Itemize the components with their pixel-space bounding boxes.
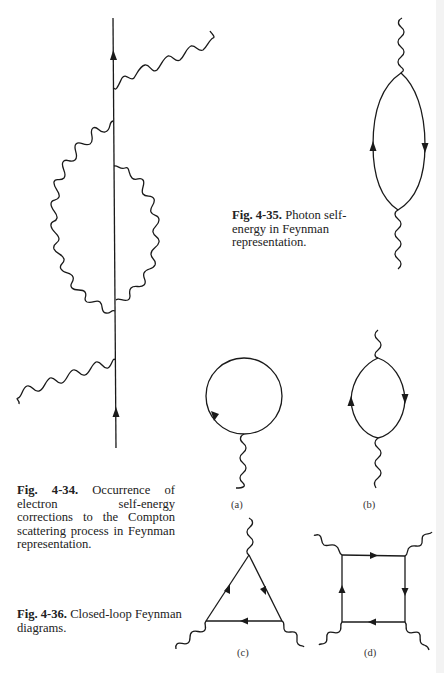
sublabel-d: (d)	[364, 647, 376, 658]
top-photon	[398, 18, 404, 73]
arrow-up-icon	[348, 396, 355, 406]
tadpole-loop	[206, 358, 282, 434]
self-energy-loop-left	[51, 121, 115, 313]
bottom-photon	[395, 210, 401, 269]
fig-4-34-diagram	[17, 18, 214, 448]
top-photon	[247, 518, 253, 555]
outgoing-photon	[114, 31, 214, 89]
arrow-up-icon	[110, 50, 117, 60]
photon	[236, 434, 246, 488]
figure-label: Fig. 4-36.	[17, 607, 67, 621]
arrow-left-icon	[240, 618, 248, 625]
arrow-down-icon	[402, 588, 409, 596]
arrow-down-icon	[402, 394, 409, 404]
arrow-right-icon	[370, 552, 378, 559]
self-energy-loop-right	[114, 166, 159, 301]
electron-line	[113, 18, 116, 448]
fig-4-36-c-diagram	[176, 518, 304, 649]
arrow-up-icon	[339, 585, 346, 593]
fig-4-36-a-diagram	[206, 358, 282, 488]
right-photon	[282, 621, 304, 647]
fermion-loop	[373, 73, 425, 210]
figure-label: Fig. 4-35.	[232, 208, 282, 222]
bottom-photon	[375, 438, 381, 488]
caption-fig-4-35: Fig. 4-35. Photon self-energy in Feynman…	[232, 209, 352, 250]
top-left-photon	[314, 535, 342, 555]
caption-fig-4-36: Fig. 4-36. Closed-loop Feynman diagrams.	[17, 608, 192, 635]
sublabel-b: (b)	[363, 499, 375, 510]
fig-4-36-b-diagram	[348, 330, 409, 488]
bottom-right-photon	[405, 622, 429, 650]
arrow-icon	[260, 586, 266, 595]
feynman-diagrams: .ln { stroke: #1a1a1a; stroke-width: 1.3…	[0, 0, 444, 673]
arrow-left-icon	[368, 619, 376, 626]
fermion-loop	[351, 358, 405, 438]
caption-fig-4-34: Fig. 4-34. Occurrence of electron self-e…	[17, 484, 175, 552]
arrow-up-icon	[370, 141, 377, 151]
fig-4-35-diagram	[370, 18, 429, 269]
sublabel-c: (c)	[237, 647, 249, 658]
bottom-left-photon	[319, 622, 342, 645]
arrow-up-icon	[113, 407, 120, 417]
sublabel-a: (a)	[231, 499, 243, 510]
arrow-down-icon	[422, 143, 429, 153]
figure-label: Fig. 4-34.	[17, 483, 78, 497]
top-right-photon	[405, 532, 432, 556]
top-photon	[375, 330, 381, 358]
fig-4-36-d-diagram	[314, 532, 432, 650]
incoming-photon	[17, 359, 115, 404]
